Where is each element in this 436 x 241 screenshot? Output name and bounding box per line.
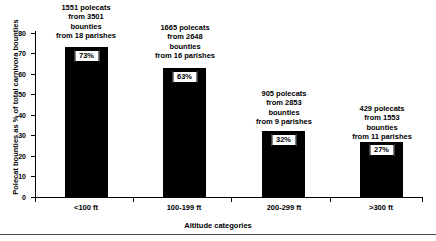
x-axis-label-lt100ft: <100 ft <box>41 203 131 212</box>
bar-value-label-1: 63% <box>172 71 197 83</box>
y-tick-label-70: 70 <box>0 50 26 57</box>
x-tick-1 <box>133 197 134 202</box>
annotation-3-line-0: 429 polecats <box>327 104 436 113</box>
y-tick-label-10: 10 <box>0 173 26 180</box>
annotation-lt100ft: 1551 polecats from 3501 bounties from 18… <box>31 3 141 41</box>
x-tick-0 <box>35 197 36 202</box>
y-tick-label-50: 50 <box>0 91 26 98</box>
y-tick-10 <box>31 176 36 177</box>
annotation-3-line-3: from 11 parishes <box>327 132 436 141</box>
y-tick-70 <box>31 53 36 54</box>
x-axis-label-100-199ft: 100-199 ft <box>139 203 229 212</box>
annotation-2-line-1: from 2853 <box>229 98 339 107</box>
annotation-3-line-1: from 1553 <box>327 113 436 122</box>
annotation-0-line-1: from 3501 <box>31 12 141 21</box>
annotation-gt300ft: 429 polecats from 1553 bounties from 11 … <box>327 104 436 142</box>
y-tick-label-20: 20 <box>0 153 26 160</box>
annotation-1-line-0: 1665 polecats <box>130 23 240 32</box>
y-tick-50 <box>31 94 36 95</box>
bar-value-label-3: 27% <box>369 144 394 156</box>
annotation-2-line-3: from 9 parishes <box>229 117 339 126</box>
x-axis-label-200-299ft: 200-299 ft <box>239 203 329 212</box>
x-axis-line <box>35 197 423 198</box>
y-tick-label-60: 60 <box>0 71 26 78</box>
annotation-1-line-1: from 2648 <box>130 32 240 41</box>
bar-value-label-0: 73% <box>74 50 99 62</box>
x-axis-title: Altitude categories <box>0 221 436 230</box>
y-tick-40 <box>31 115 36 116</box>
x-tick-3 <box>330 197 331 202</box>
annotation-0-line-3: from 18 parishes <box>31 31 141 40</box>
annotation-0-line-2: bounties <box>31 22 141 31</box>
annotation-2-line-2: bounties <box>229 108 339 117</box>
y-tick-60 <box>31 74 36 75</box>
annotation-200-299ft: 905 polecats from 2853 bounties from 9 p… <box>229 89 339 127</box>
x-axis-label-gt300ft: >300 ft <box>336 203 426 212</box>
annotation-3-line-2: bounties <box>327 123 436 132</box>
bar-chart-figure: Polecat bounties as % of total carnivora… <box>0 0 436 241</box>
y-axis-title: Polecat bounties as % of total carnivora… <box>12 17 20 197</box>
y-tick-label-0: 0 <box>0 194 26 201</box>
y-tick-label-30: 30 <box>0 132 26 139</box>
annotation-100-199ft: 1665 polecats from 2648 bounties from 16… <box>130 23 240 61</box>
x-tick-4 <box>422 197 423 202</box>
annotation-2-line-0: 905 polecats <box>229 89 339 98</box>
bar-lt100ft[interactable] <box>65 47 108 197</box>
bar-100-199ft[interactable] <box>163 68 206 197</box>
y-tick-20 <box>31 156 36 157</box>
bottom-divider <box>0 234 436 235</box>
x-tick-2 <box>231 197 232 202</box>
bar-value-label-2: 32% <box>271 134 296 146</box>
annotation-1-line-2: bounties <box>130 42 240 51</box>
annotation-0-line-0: 1551 polecats <box>31 3 141 12</box>
y-tick-label-40: 40 <box>0 112 26 119</box>
y-tick-label-80: 80 <box>0 30 26 37</box>
bar-group-0: 73% <box>65 33 108 197</box>
y-tick-30 <box>31 135 36 136</box>
annotation-1-line-3: from 16 parishes <box>130 51 240 60</box>
